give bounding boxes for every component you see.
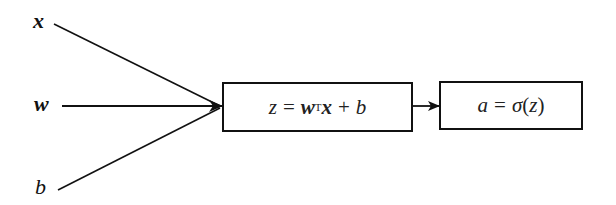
activation-lhs: a <box>478 93 489 118</box>
linear-x: x <box>321 95 332 120</box>
input-label-b: b <box>35 176 46 198</box>
input-label-w: w <box>34 93 49 115</box>
linear-b: b <box>356 95 367 120</box>
diagram-canvas: x w b z = wTx + b a = σ(z) <box>0 0 616 205</box>
activation-sigma: σ <box>512 93 522 118</box>
edge-x-to-linear <box>54 24 220 106</box>
linear-lhs: z <box>269 95 277 120</box>
activation-close-paren: ) <box>537 93 544 118</box>
linear-eq: = <box>277 95 301 120</box>
activation-node-box: a = σ(z) <box>439 81 583 130</box>
activation-eq: = <box>488 93 512 118</box>
edge-b-to-linear <box>58 108 220 190</box>
input-label-x: x <box>33 10 44 32</box>
activation-arg: z <box>529 93 537 118</box>
linear-node-box: z = wTx + b <box>222 82 413 132</box>
linear-plus: + <box>332 95 356 120</box>
linear-w: w <box>301 95 315 120</box>
